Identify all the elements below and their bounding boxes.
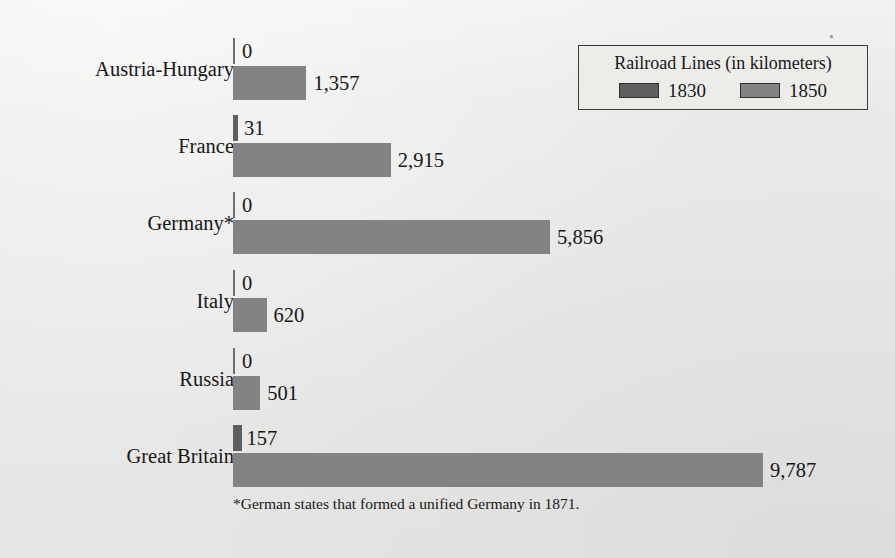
chart-legend: Railroad Lines (in kilometers) 1830 1850 [578, 45, 868, 110]
value-label-1850: 1,357 [313, 73, 359, 94]
bar-1850 [233, 66, 306, 100]
bar-group: Great Britain1579,787 [0, 425, 895, 487]
bar-group: Russia0501 [0, 348, 895, 410]
value-label-1830: 0 [242, 41, 252, 62]
legend-label-1830: 1830 [668, 81, 706, 100]
value-label-1830: 157 [247, 428, 278, 449]
value-label-1850: 2,915 [398, 150, 444, 171]
bar-1850 [233, 298, 267, 332]
value-label-1830: 31 [244, 118, 265, 139]
zero-tick [233, 348, 235, 374]
bar-1850 [233, 220, 550, 254]
railroad-lines-bar-chart: Austria-Hungary01,357France312,915German… [0, 0, 895, 558]
zero-tick [233, 270, 235, 296]
value-label-1850: 9,787 [770, 460, 816, 481]
bar-1830 [233, 115, 238, 141]
value-label-1850: 501 [267, 383, 298, 404]
bar-1850 [233, 376, 260, 410]
zero-tick [233, 192, 235, 218]
legend-label-1850: 1850 [789, 81, 827, 100]
value-label-1850: 620 [274, 305, 305, 326]
category-label-austria-hungary: Austria-Hungary [0, 59, 234, 80]
bar-group: Germany*05,856 [0, 192, 895, 254]
category-label-france: France [0, 136, 234, 157]
bar-1830 [233, 425, 242, 451]
zero-tick [233, 38, 235, 64]
value-label-1830: 0 [242, 351, 252, 372]
value-label-1830: 0 [242, 273, 252, 294]
category-label-russia: Russia [0, 369, 234, 390]
legend-swatch-1850-icon [740, 83, 780, 98]
chart-footnote: *German states that formed a unified Ger… [233, 496, 580, 512]
bar-group: Italy0620 [0, 270, 895, 332]
legend-item-1830: 1830 [619, 81, 706, 100]
category-label-italy: Italy [0, 291, 234, 312]
legend-swatch-1830-icon [619, 83, 659, 98]
scan-artifact-speck [830, 35, 833, 38]
legend-item-1850: 1850 [740, 81, 827, 100]
category-label-great-britain: Great Britain [0, 446, 234, 467]
legend-title: Railroad Lines (in kilometers) [579, 53, 867, 74]
value-label-1830: 0 [242, 195, 252, 216]
value-label-1850: 5,856 [557, 227, 603, 248]
bar-group: France312,915 [0, 115, 895, 177]
category-label-germany: Germany* [0, 213, 234, 234]
bar-1850 [233, 143, 391, 177]
legend-entries: 1830 1850 [579, 81, 867, 100]
bar-1850 [233, 453, 763, 487]
